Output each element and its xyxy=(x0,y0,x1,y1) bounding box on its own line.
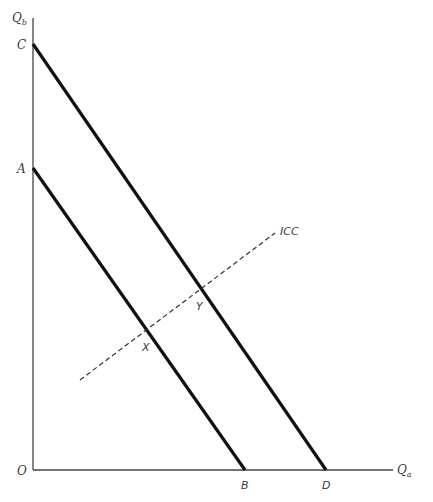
y-axis-label: Qb xyxy=(12,11,27,27)
x-axis-label: Qa xyxy=(397,463,412,479)
point-label-y: Y xyxy=(196,300,204,313)
icc-label: ICC xyxy=(280,225,299,238)
diagram-canvas: Qb Qa O C A B D X Y ICC xyxy=(0,0,433,502)
point-label-a: A xyxy=(16,162,26,176)
point-label-d: D xyxy=(322,479,330,492)
budget-line-ab xyxy=(33,168,245,470)
point-label-c: C xyxy=(17,38,26,52)
point-label-b: B xyxy=(241,479,249,492)
origin-label: O xyxy=(17,464,27,478)
budget-line-cd xyxy=(33,44,326,470)
point-label-x: X xyxy=(141,341,150,354)
